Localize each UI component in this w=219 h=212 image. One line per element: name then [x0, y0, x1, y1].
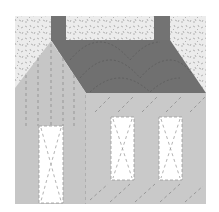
left-chimney: [51, 16, 66, 41]
right-chimney: [154, 16, 170, 41]
house-quilt-block: [0, 0, 219, 212]
